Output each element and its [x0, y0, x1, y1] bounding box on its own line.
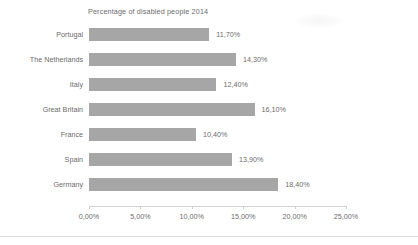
x-axis-tick-label: 0,00% — [69, 212, 109, 221]
x-axis-tick — [243, 206, 244, 209]
category-label: Italy — [0, 80, 83, 89]
bar-value-label: 18,40% — [285, 180, 309, 189]
x-axis-tick — [346, 206, 347, 209]
category-label: France — [0, 130, 83, 139]
footer-divider — [0, 236, 418, 237]
bar-track — [89, 128, 196, 141]
category-label: Great Britain — [0, 105, 83, 114]
x-axis-tick-label: 5,00% — [120, 212, 160, 221]
bar-track — [89, 78, 216, 91]
x-axis-line — [89, 206, 346, 207]
bar-value-label: 14,30% — [243, 55, 267, 64]
x-axis-tick — [295, 206, 296, 209]
bar-row: Italy12,40% — [0, 77, 418, 102]
x-axis-tick-label: 20,00% — [275, 212, 315, 221]
x-axis-tick-label: 10,00% — [172, 212, 212, 221]
bar-row: The Netherlands14,30% — [0, 52, 418, 77]
chart-figure: Percentage of disabled people 2014 Portu… — [0, 0, 418, 232]
x-axis-tick — [192, 206, 193, 209]
bar-row: Germany18,40% — [0, 177, 418, 202]
bar — [89, 128, 196, 141]
bar-value-label: 13,90% — [239, 155, 263, 164]
bar-row: Spain13,90% — [0, 152, 418, 177]
bar-row: France10,40% — [0, 127, 418, 152]
category-label: Portugal — [0, 30, 83, 39]
bar-value-label: 10,40% — [203, 130, 227, 139]
bar-row: Great Britain16,10% — [0, 102, 418, 127]
bar — [89, 178, 278, 191]
bar — [89, 53, 236, 66]
bar — [89, 28, 209, 41]
x-axis-tick-label: 25,00% — [326, 212, 366, 221]
bar-value-label: 12,40% — [223, 80, 247, 89]
bar — [89, 153, 232, 166]
x-axis-tick-label: 15,00% — [223, 212, 263, 221]
x-axis-tick — [89, 206, 90, 209]
bar-value-label: 16,10% — [262, 105, 286, 114]
bar-track — [89, 28, 209, 41]
x-axis-tick — [140, 206, 141, 209]
bar — [89, 78, 216, 91]
bar-track — [89, 103, 255, 116]
bar-row: Portugal11,70% — [0, 27, 418, 52]
bar-chart-plot-area: Portugal11,70%The Netherlands14,30%Italy… — [0, 24, 418, 206]
bar — [89, 103, 255, 116]
bar-track — [89, 178, 278, 191]
chart-title: Percentage of disabled people 2014 — [88, 7, 208, 16]
bar-track — [89, 53, 236, 66]
category-label: Spain — [0, 155, 83, 164]
bar-value-label: 11,70% — [216, 30, 240, 39]
bar-track — [89, 153, 232, 166]
category-label: The Netherlands — [0, 55, 83, 64]
category-label: Germany — [0, 180, 83, 189]
